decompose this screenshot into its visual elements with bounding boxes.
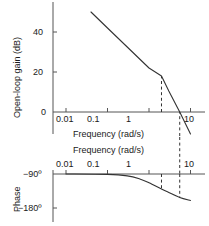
phase-xlabel: Frequency (rad/s) bbox=[73, 146, 144, 155]
magnitude-ytick-20: 20 bbox=[33, 68, 43, 77]
magnitude-xlabel: Frequency (rad/s) bbox=[73, 130, 144, 139]
phase-xtick-0.01: 0.01 bbox=[56, 160, 74, 169]
phase-curve bbox=[66, 174, 191, 200]
magnitude-ylabel: Open-loop gain (dB) bbox=[13, 37, 22, 118]
phase-xtick-10: 10 bbox=[184, 160, 194, 169]
phase-ytick-minus90: −90º bbox=[23, 170, 42, 179]
magnitude-xtick-0.1: 0.1 bbox=[87, 115, 100, 124]
magnitude-ytick-0: 0 bbox=[41, 108, 46, 117]
magnitude-xtick-10: 10 bbox=[184, 115, 194, 124]
magnitude-curve bbox=[91, 12, 191, 134]
phase-ytick-minus180: −180º bbox=[18, 204, 42, 213]
magnitude-ytick-40: 40 bbox=[33, 28, 43, 37]
magnitude-xtick-0.01: 0.01 bbox=[56, 115, 74, 124]
phase-xtick-1: 1 bbox=[126, 160, 131, 169]
figure-canvas bbox=[0, 0, 209, 226]
magnitude-xtick-1: 1 bbox=[126, 115, 131, 124]
bode-plot-figure: Open-loop gain (dB) 40 20 0 0.01 0.1 1 1… bbox=[0, 0, 209, 226]
phase-xtick-0.1: 0.1 bbox=[87, 160, 100, 169]
